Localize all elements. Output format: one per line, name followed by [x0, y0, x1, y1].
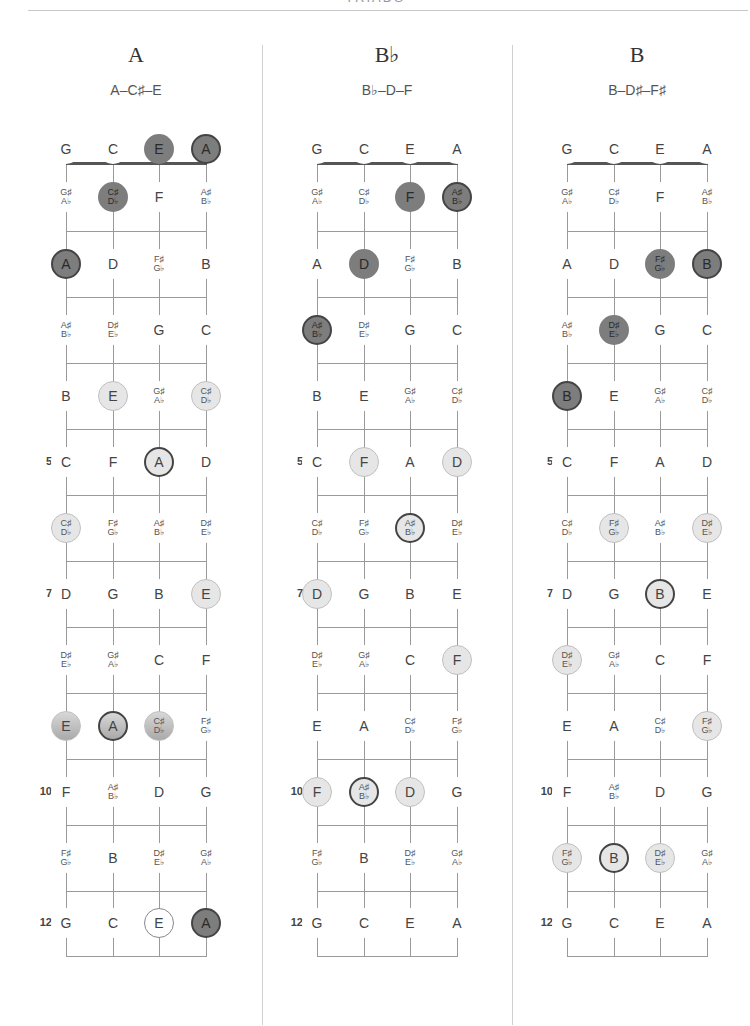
- chord-note-marker: D♯E♭: [599, 315, 629, 345]
- fret-note: C: [442, 315, 472, 345]
- fret-note: D: [692, 447, 722, 477]
- string-line: [457, 163, 458, 956]
- note-label: A: [702, 142, 711, 156]
- note-label: G♭: [358, 528, 369, 537]
- note-label: B♭: [562, 330, 572, 339]
- fret-line: [567, 429, 708, 430]
- note-label: E♭: [61, 660, 71, 669]
- note-label: B: [609, 851, 618, 865]
- fret-note: G: [599, 579, 629, 609]
- note-label: E: [452, 587, 461, 601]
- note-label: D: [452, 455, 462, 469]
- chord-note-marker: F♯G♭: [645, 249, 675, 279]
- fret-note: G♯A♭: [98, 645, 128, 675]
- fretboard: 571012GCEAG♯A♭C♯D♭FA♯B♭ADF♯G♭BA♯B♭D♯E♭GC…: [11, 0, 261, 1026]
- fret-note: A♯B♭: [645, 513, 675, 543]
- fret-note: B: [98, 843, 128, 873]
- fret-note: E: [349, 381, 379, 411]
- note-label: B♭: [359, 792, 369, 801]
- chord-note-marker: F: [302, 777, 332, 807]
- note-label: D♭: [609, 197, 620, 206]
- fretboard: 571012GCEAG♯A♭C♯D♭FA♯B♭ADF♯G♭BA♯B♭D♯E♭GC…: [512, 0, 750, 1026]
- root-note-marker: A: [144, 447, 174, 477]
- note-label: E: [312, 719, 321, 733]
- root-note-marker: A♯B♭: [442, 182, 472, 212]
- fret-note: G♯A♭: [302, 182, 332, 212]
- fret-note: C: [349, 134, 379, 164]
- fret-note: D: [51, 579, 81, 609]
- chord-note-marker: E: [144, 908, 174, 938]
- fret-note: G♯A♭: [599, 645, 629, 675]
- note-label: E: [154, 142, 163, 156]
- note-label: A: [702, 916, 711, 930]
- fret-number: 7: [283, 587, 303, 599]
- string-line: [364, 163, 365, 956]
- note-label: C: [61, 455, 71, 469]
- note-label: G♭: [200, 726, 211, 735]
- fret-note: B: [191, 249, 221, 279]
- fret-note: F: [144, 182, 174, 212]
- fret-line: [317, 693, 458, 694]
- root-note-marker: A: [98, 711, 128, 741]
- note-label: E♭: [562, 660, 572, 669]
- note-label: E: [61, 719, 70, 733]
- note-label: G♭: [654, 264, 665, 273]
- fret-note: E: [395, 134, 425, 164]
- fret-note: G: [442, 777, 472, 807]
- note-label: D♭: [201, 396, 212, 405]
- chord-column-b: B B–D♯–F♯ 571012GCEAG♯A♭C♯D♭FA♯B♭ADF♯G♭B…: [512, 0, 750, 1026]
- note-label: B♭: [655, 528, 665, 537]
- fret-line: [567, 495, 708, 496]
- fret-note: A: [552, 249, 582, 279]
- fret-line: [66, 495, 207, 496]
- note-label: G: [108, 587, 119, 601]
- note-label: B: [702, 257, 711, 271]
- note-label: D: [201, 455, 211, 469]
- note-label: G: [201, 785, 212, 799]
- fret-note: A: [442, 134, 472, 164]
- chord-note-marker: F: [442, 645, 472, 675]
- fret-note: G: [692, 777, 722, 807]
- note-label: A: [108, 719, 117, 733]
- fret-note: F: [552, 777, 582, 807]
- note-label: G: [154, 323, 165, 337]
- note-label: B♭: [702, 197, 712, 206]
- note-label: F: [563, 785, 572, 799]
- fret-number: 12: [533, 916, 553, 928]
- note-label: G♭: [561, 858, 572, 867]
- fret-note: A♯B♭: [599, 777, 629, 807]
- note-label: G: [702, 785, 713, 799]
- note-label: A♭: [359, 660, 369, 669]
- note-label: A♭: [655, 396, 665, 405]
- fret-number: 12: [283, 916, 303, 928]
- note-label: G♭: [404, 264, 415, 273]
- note-label: A♭: [61, 197, 71, 206]
- string-line: [206, 163, 207, 956]
- fret-line: [66, 231, 207, 232]
- note-label: G♭: [153, 264, 164, 273]
- note-label: E♭: [201, 528, 211, 537]
- note-label: B♭: [108, 792, 118, 801]
- fret-note: E: [442, 579, 472, 609]
- fret-note: B: [144, 579, 174, 609]
- fret-line: [66, 627, 207, 628]
- note-label: B♭: [154, 528, 164, 537]
- fret-note: C♯D♭: [692, 381, 722, 411]
- note-label: A♭: [201, 858, 211, 867]
- fret-note: G♯A♭: [191, 843, 221, 873]
- string-line: [567, 163, 568, 956]
- fret-note: G♯A♭: [349, 645, 379, 675]
- chord-note-marker: F♯G♭: [692, 711, 722, 741]
- chord-note-marker: D♯E♭: [645, 843, 675, 873]
- note-label: E: [655, 142, 664, 156]
- fret-note: E: [395, 908, 425, 938]
- fret-note: F♯G♭: [442, 711, 472, 741]
- note-label: D♭: [405, 726, 416, 735]
- fret-note: D: [98, 249, 128, 279]
- fret-note: C♯D♭: [442, 381, 472, 411]
- fret-note: C: [98, 908, 128, 938]
- note-label: D: [108, 257, 118, 271]
- note-label: D: [562, 587, 572, 601]
- note-label: A: [452, 916, 461, 930]
- fret-line: [66, 759, 207, 760]
